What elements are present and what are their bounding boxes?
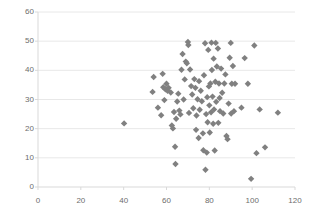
data-point	[210, 55, 216, 61]
data-point	[195, 135, 201, 141]
x-axis-tick-label: 20	[76, 197, 85, 205]
data-point	[215, 45, 221, 51]
data-point	[215, 120, 221, 126]
data-point	[187, 66, 193, 72]
data-point	[204, 119, 210, 125]
data-point-markers	[121, 39, 281, 182]
data-point	[200, 130, 206, 136]
data-point	[172, 161, 178, 167]
x-axis-tick-label: 100	[245, 197, 258, 205]
data-point	[202, 167, 208, 173]
data-point	[232, 81, 238, 87]
data-point	[221, 80, 227, 86]
data-point	[248, 176, 254, 182]
data-point	[158, 112, 164, 118]
data-point	[161, 97, 167, 103]
data-point	[178, 67, 184, 73]
y-axis-tick-label: 30	[12, 96, 34, 104]
data-point	[210, 121, 216, 127]
data-point	[206, 102, 212, 108]
y-axis-tick-label: 20	[12, 125, 34, 133]
y-axis-tick-label: 50	[12, 37, 34, 45]
data-point	[196, 107, 202, 113]
plot-area	[0, 0, 309, 221]
data-point	[275, 109, 281, 115]
data-point	[193, 112, 199, 118]
data-point	[238, 104, 244, 110]
data-point	[222, 71, 228, 77]
data-point	[253, 150, 259, 156]
data-point	[149, 89, 155, 95]
data-point	[173, 116, 179, 122]
data-point	[209, 67, 215, 73]
data-point	[219, 90, 225, 96]
data-point	[207, 129, 213, 135]
data-point	[256, 106, 262, 112]
data-point	[262, 144, 268, 150]
data-point	[182, 76, 188, 82]
x-axis-tick-label: 80	[205, 197, 214, 205]
data-point	[171, 109, 177, 115]
data-point	[121, 120, 127, 126]
y-axis-tick-label: 10	[12, 154, 34, 162]
data-point	[211, 147, 217, 153]
scatter-chart: 0102030405060 020406080100120	[0, 0, 309, 221]
data-point	[205, 47, 211, 53]
data-point	[209, 93, 215, 99]
data-point	[198, 88, 204, 94]
data-point	[245, 81, 251, 87]
y-axis-tick-label: 40	[12, 66, 34, 74]
data-point	[179, 51, 185, 57]
data-point	[201, 72, 207, 78]
data-point	[155, 104, 161, 110]
data-point	[172, 144, 178, 150]
x-axis-tick-label: 0	[36, 197, 40, 205]
data-point	[150, 74, 156, 80]
y-axis-tick-label: 0	[12, 183, 34, 191]
data-point	[175, 90, 181, 96]
x-axis-tick-label: 120	[288, 197, 301, 205]
data-point	[226, 55, 232, 61]
data-point	[241, 55, 247, 61]
data-point	[186, 110, 192, 116]
data-point	[159, 71, 165, 77]
data-point	[251, 42, 257, 48]
x-axis-tick-label: 60	[162, 197, 171, 205]
x-axis-tick-label: 40	[119, 197, 128, 205]
data-point	[230, 63, 236, 69]
y-axis-tick-label: 60	[12, 8, 34, 16]
data-point	[189, 91, 195, 97]
data-point	[225, 100, 231, 106]
data-point	[193, 127, 199, 133]
data-point	[180, 96, 186, 102]
data-point	[190, 105, 196, 111]
